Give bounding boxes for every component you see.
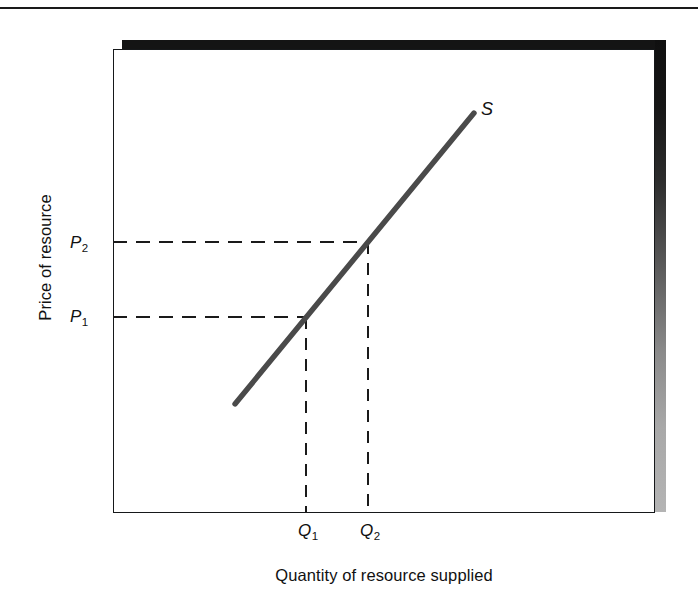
x-axis-title: Quantity of resource supplied (113, 566, 655, 585)
x-tick-label-q1: Q1 (298, 521, 318, 542)
x-tick-label-q2-subscript: 2 (373, 530, 380, 542)
y-axis-title: Price of resource (36, 148, 55, 368)
supply-curve-line (235, 113, 474, 404)
supply-curve-label: S (481, 99, 493, 120)
y-tick-label-p1-subscript: 1 (81, 316, 88, 328)
x-tick-label-q1-subscript: 1 (311, 530, 318, 542)
y-tick-label-p2: P2 (70, 233, 88, 254)
y-tick-label-p2-subscript: 2 (81, 242, 88, 254)
y-tick-label-p1: P1 (70, 307, 88, 328)
x-tick-label-q2: Q2 (360, 521, 380, 542)
y-tick-label-p1-base: P (70, 307, 81, 326)
page-scan-edge-line (0, 7, 698, 9)
plot-canvas (113, 49, 655, 513)
x-tick-label-q1-base: Q (298, 521, 311, 540)
plot-frame-shadow-right (655, 40, 666, 512)
supply-curve-figure: Price of resource Quantity of resource s… (0, 0, 698, 610)
x-tick-label-q2-base: Q (360, 521, 373, 540)
y-tick-label-p2-base: P (70, 233, 81, 252)
